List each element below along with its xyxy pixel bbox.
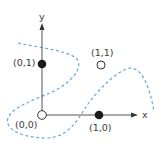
y-axis-arrow-icon [40, 23, 45, 30]
point-0-0 [38, 111, 47, 120]
xor-diagram: y x (0,1) (1,1) (0,0) (1,0) [0, 0, 165, 149]
point-1-0-label: (1,0) [89, 122, 112, 133]
point-0-0-label: (0,0) [15, 119, 38, 130]
point-1-0 [95, 111, 104, 120]
y-axis-label: y [39, 11, 45, 22]
x-axis-label: x [142, 109, 148, 120]
point-1-1-label: (1,1) [91, 47, 114, 58]
point-1-1 [97, 61, 105, 69]
point-0-1-label: (0,1) [13, 57, 36, 68]
x-axis-arrow-icon [131, 113, 138, 118]
point-0-1 [38, 60, 47, 69]
